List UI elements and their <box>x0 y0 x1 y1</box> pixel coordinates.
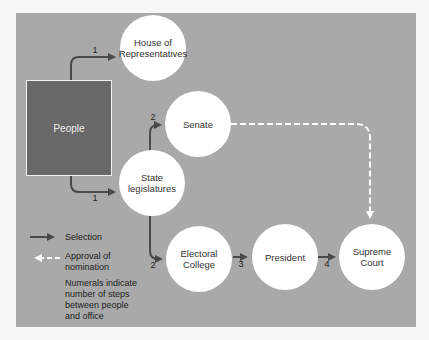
step-president: 3 <box>238 259 243 269</box>
legend-line: number of steps <box>65 289 137 300</box>
label-line: Representatives <box>118 48 188 59</box>
label-line: House of <box>118 37 188 48</box>
step-state: 1 <box>92 193 97 203</box>
people-box: People <box>26 80 112 176</box>
label-line: Court <box>337 257 407 268</box>
step-electoral: 2 <box>150 260 155 270</box>
label-line: State <box>117 172 187 183</box>
step-senate: 2 <box>150 112 155 122</box>
arrow-people-state <box>71 176 114 192</box>
approval-senate-court <box>231 124 370 217</box>
legend-note: Numerals indicate number of steps betwee… <box>65 278 137 322</box>
label-line: College <box>164 259 234 270</box>
label-line: President <box>250 252 320 263</box>
label-court: Supreme Court <box>337 246 407 268</box>
people-label: People <box>27 81 111 175</box>
step-court: 4 <box>324 259 329 269</box>
label-state: State legislatures <box>117 172 187 194</box>
label-line: Supreme <box>337 246 407 257</box>
legend-line: Numerals indicate <box>65 278 137 289</box>
arrow-people-house <box>71 57 114 80</box>
label-house: House of Representatives <box>118 37 188 59</box>
label-president: President <box>250 252 320 263</box>
arrow-state-senate <box>150 125 160 150</box>
label-line: Electoral <box>164 248 234 259</box>
legend-line: nomination <box>65 262 111 273</box>
legend-line: between people <box>65 300 137 311</box>
legend-selection: Selection <box>65 232 102 243</box>
legend-approval: Approval of nomination <box>65 251 111 273</box>
legend-line: and office <box>65 311 137 322</box>
arrow-state-electoral <box>150 216 161 259</box>
label-senate: Senate <box>163 119 233 130</box>
step-house: 1 <box>92 45 97 55</box>
label-line: legislatures <box>117 183 187 194</box>
label-electoral: Electoral College <box>164 248 234 270</box>
label-line: Senate <box>163 119 233 130</box>
legend-line: Approval of <box>65 251 111 262</box>
